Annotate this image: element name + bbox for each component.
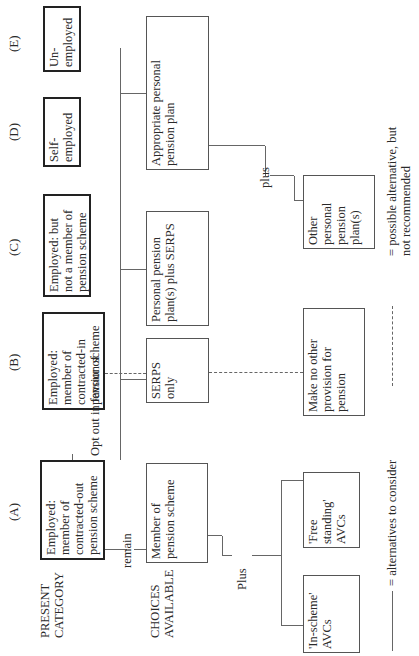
present-category-label: PRESENT CATEGORY (38, 572, 66, 638)
choice-member-of-scheme: Member of pension scheme (146, 463, 208, 563)
choice-appropriate-personal: Appropriate personal pension plan (146, 16, 209, 170)
choices-available-label: CHOICES AVAILABLE (148, 570, 176, 638)
category-letter-c: (C) (6, 239, 22, 256)
dashed-b-to-serps (105, 373, 146, 374)
pension-choices-diagram: PRESENT CATEGORY CHOICES AVAILABLE (A) (… (0, 0, 419, 656)
category-box-a: Employed: member of contracted-out pensi… (40, 460, 105, 560)
legend-solid-text: = alternatives to consider (385, 460, 399, 586)
opt-out-bus (120, 48, 121, 460)
choice-personal-plus-serps: Personal pension plan(s) plus SERPS (146, 211, 209, 326)
opt-out-label: Opt out in favour of (88, 356, 102, 456)
category-box-d: Self-employed (43, 97, 81, 167)
avcs-bus (281, 481, 282, 626)
choice-in-scheme-avcs: 'In-scheme' AVCs (303, 575, 360, 653)
choice-other-personal: Other personal pension plan(s) (303, 175, 375, 249)
category-letter-d: (D) (6, 123, 22, 141)
choice-serps-only: SERPS only (146, 338, 209, 403)
legend-solid-line (392, 591, 393, 651)
category-letter-b: (B) (6, 354, 22, 371)
category-box-c: Employed: but not a member of pension sc… (43, 194, 91, 297)
plus-label-avcs: Plus (235, 568, 249, 590)
legend-dashed-text: = possible alternative, but not recommen… (385, 116, 413, 256)
dashed-serps-to-no-provision (209, 372, 303, 373)
remain-label: remain (120, 533, 134, 568)
legend-dashed-line (392, 306, 393, 386)
plus-label-other: plus (258, 167, 272, 188)
category-letter-e: (E) (6, 35, 22, 52)
category-box-e: Un-employed (43, 6, 81, 72)
category-letter-a: (A) (6, 503, 22, 521)
choice-no-provision: Make no other provision for pension (303, 308, 365, 416)
choice-free-standing-avcs: 'Free standing' AVCs (303, 472, 360, 548)
